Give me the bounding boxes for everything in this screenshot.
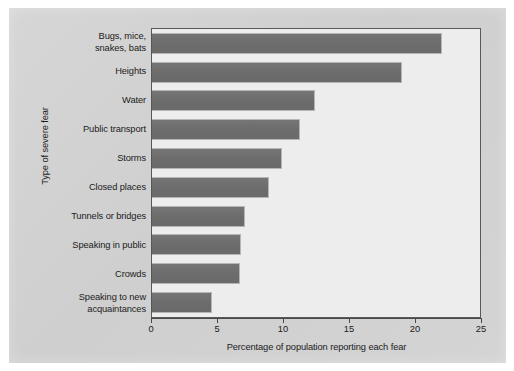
bar xyxy=(152,34,441,53)
category-label-line: Speaking in public xyxy=(72,240,146,251)
x-axis-title: Percentage of population reporting each … xyxy=(151,342,482,352)
x-axis-tick xyxy=(415,318,416,323)
x-axis-line xyxy=(151,318,482,319)
category-label: Bugs, mice, snakes, bats xyxy=(49,29,146,57)
x-axis-tick-label: 0 xyxy=(148,324,153,334)
figure: Type of severe fear Bugs, mice, snakes, … xyxy=(0,0,514,371)
category-label: Tunnels or bridges xyxy=(49,203,146,231)
category-label-line: acquaintances xyxy=(87,304,146,315)
category-label: Storms xyxy=(49,145,146,173)
category-label-line: Storms xyxy=(117,153,146,164)
bar-row xyxy=(152,178,480,197)
category-label-line: Heights xyxy=(115,66,146,77)
bar-row xyxy=(152,120,480,139)
bar-row xyxy=(152,34,480,53)
category-label: Closed places xyxy=(49,174,146,202)
x-axis-tick xyxy=(283,318,284,323)
category-label: Speaking to new acquaintances xyxy=(49,290,146,318)
bar xyxy=(152,207,244,226)
x-axis-tick-label: 20 xyxy=(410,324,420,334)
x-axis-tick xyxy=(151,318,152,323)
x-axis-tick xyxy=(217,318,218,323)
category-axis-labels: Bugs, mice, snakes, bats Heights Water P… xyxy=(49,28,146,318)
category-label-line: snakes, bats xyxy=(95,43,146,54)
category-label: Public transport xyxy=(49,116,146,144)
bar-series xyxy=(152,29,480,317)
category-label: Water xyxy=(49,87,146,115)
scanned-page-panel: Type of severe fear Bugs, mice, snakes, … xyxy=(9,8,506,363)
plot-area xyxy=(151,28,481,318)
x-axis-tick-label: 10 xyxy=(278,324,288,334)
bar xyxy=(152,120,299,139)
category-label-line: Water xyxy=(122,95,146,106)
bar-row xyxy=(152,235,480,254)
category-label-line: Speaking to new xyxy=(79,292,146,303)
bar xyxy=(152,178,268,197)
bar xyxy=(152,264,239,283)
bar xyxy=(152,63,401,82)
x-axis-tick-label: 15 xyxy=(344,324,354,334)
bar-row xyxy=(152,264,480,283)
category-label-line: Closed places xyxy=(89,182,146,193)
bar-row xyxy=(152,91,480,110)
bar xyxy=(152,149,281,168)
category-label-line: Crowds xyxy=(115,269,146,280)
x-axis-tick xyxy=(349,318,350,323)
x-axis-tick-label: 5 xyxy=(214,324,219,334)
bar xyxy=(152,91,314,110)
bar xyxy=(152,293,211,312)
x-axis-tick xyxy=(481,318,482,323)
bar-row xyxy=(152,293,480,312)
bar-row xyxy=(152,149,480,168)
category-label-line: Bugs, mice, xyxy=(99,31,146,42)
category-label: Crowds xyxy=(49,261,146,289)
bar-row xyxy=(152,207,480,226)
category-label: Heights xyxy=(49,58,146,86)
x-axis-tick-label: 25 xyxy=(476,324,486,334)
category-label: Speaking in public xyxy=(49,232,146,260)
category-label-line: Public transport xyxy=(83,124,146,135)
bar xyxy=(152,235,240,254)
category-label-line: Tunnels or bridges xyxy=(71,211,146,222)
bar-row xyxy=(152,63,480,82)
